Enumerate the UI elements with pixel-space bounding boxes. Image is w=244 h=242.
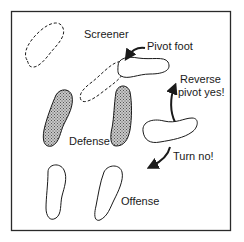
reverse-pivot-arrow [171, 88, 175, 122]
turn-no-arrow [152, 147, 170, 166]
label-defense: Defense [69, 135, 110, 147]
label-reverse-line2: pivot yes! [178, 86, 224, 98]
label-reverse-line1: Reverse [180, 73, 221, 85]
pivot-foot-arrow [128, 48, 145, 56]
turned-foot [143, 118, 197, 143]
pivot-foot [118, 57, 169, 77]
label-offense: Offense [121, 195, 159, 207]
diagram-canvas: Screener Pivot foot Reverse pivot yes! D… [0, 0, 244, 242]
label-screener: Screener [84, 28, 129, 40]
offense-foot-right [95, 166, 123, 220]
defense-foot-right [111, 86, 132, 146]
offense-foot-left [46, 165, 66, 219]
label-pivot-foot: Pivot foot [147, 40, 193, 52]
label-turn-no: Turn no! [173, 150, 214, 162]
screener-foot-left [25, 23, 63, 67]
